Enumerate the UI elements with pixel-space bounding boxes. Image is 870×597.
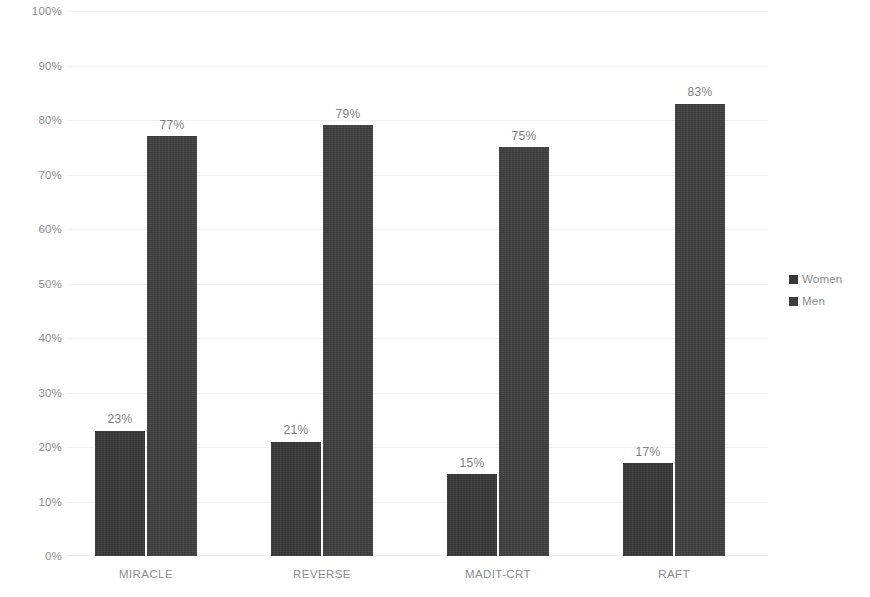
bar-men-miracle[interactable] — [147, 136, 197, 556]
y-axis-tick-label: 20% — [4, 441, 62, 453]
bar-women-miracle[interactable] — [95, 431, 145, 556]
legend-swatch-women-icon — [789, 275, 798, 284]
y-axis-tick-label: 100% — [4, 5, 62, 17]
y-axis-tick-label: 70% — [4, 169, 62, 181]
x-axis-label-madit-crt: MADIT-CRT — [408, 568, 588, 580]
legend-swatch-men-icon — [789, 297, 798, 306]
data-label-men-miracle: 77% — [142, 118, 202, 132]
data-label-women-madit-crt: 15% — [442, 456, 502, 470]
bar-chart: 100% 90% 80% 70% 60% 50% 40% 30% 20% 10%… — [0, 0, 870, 597]
plot-area: 23% 77% 21% 79% 15% 75% 17% 83% — [68, 11, 768, 556]
data-label-women-raft: 17% — [618, 445, 678, 459]
y-axis-tick-label: 50% — [4, 278, 62, 290]
y-axis-tick-label: 40% — [4, 332, 62, 344]
bar-group-raft: 17% 83% — [623, 11, 725, 556]
y-axis: 100% 90% 80% 70% 60% 50% 40% 30% 20% 10%… — [0, 11, 62, 556]
y-axis-tick-label: 60% — [4, 223, 62, 235]
y-axis-tick-label: 0% — [4, 550, 62, 562]
bar-men-madit-crt[interactable] — [499, 147, 549, 556]
data-label-men-raft: 83% — [670, 85, 730, 99]
bar-women-raft[interactable] — [623, 463, 673, 556]
legend-label-men: Men — [802, 295, 825, 307]
bar-group-miracle: 23% 77% — [95, 11, 197, 556]
bar-men-reverse[interactable] — [323, 125, 373, 556]
x-axis-label-reverse: REVERSE — [232, 568, 412, 580]
bar-women-reverse[interactable] — [271, 442, 321, 557]
data-label-women-miracle: 23% — [90, 412, 150, 426]
y-axis-tick-label: 90% — [4, 60, 62, 72]
y-axis-tick-label: 30% — [4, 387, 62, 399]
data-label-men-madit-crt: 75% — [494, 129, 554, 143]
legend-label-women: Women — [802, 273, 842, 285]
y-axis-tick-label: 10% — [4, 496, 62, 508]
x-axis-label-raft: RAFT — [584, 568, 764, 580]
bar-group-reverse: 21% 79% — [271, 11, 373, 556]
bar-group-madit-crt: 15% 75% — [447, 11, 549, 556]
bar-women-madit-crt[interactable] — [447, 474, 497, 556]
legend-item-women[interactable]: Women — [789, 268, 842, 290]
x-axis-label-miracle: MIRACLE — [56, 568, 236, 580]
bar-men-raft[interactable] — [675, 104, 725, 556]
y-axis-tick-label: 80% — [4, 114, 62, 126]
data-label-women-reverse: 21% — [266, 423, 326, 437]
legend-item-men[interactable]: Men — [789, 290, 842, 312]
data-label-men-reverse: 79% — [318, 107, 378, 121]
legend: Women Men — [789, 268, 842, 312]
